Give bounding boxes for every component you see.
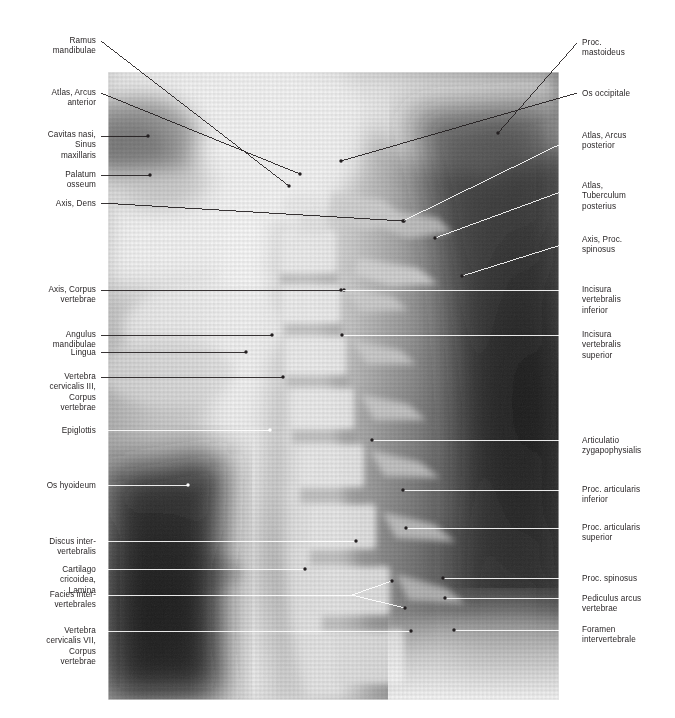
label-articulatio-zygapophysialis: Articulatio zygapophysialis bbox=[582, 436, 641, 457]
label-foramen-intervertebrale: Foramen intervertebrale bbox=[582, 625, 636, 646]
radiograph-image bbox=[108, 72, 559, 700]
label-epiglottis: Epiglottis bbox=[62, 426, 96, 436]
label-discus-intervertebralis: Discus inter- vertebralis bbox=[49, 537, 96, 558]
label-proc-spinosus: Proc. spinosus bbox=[582, 574, 637, 584]
label-vertebra-cervicalis-iii: Vertebra cervicalis III, Corpus vertebra… bbox=[49, 372, 96, 413]
label-axis-corpus-vertebrae: Axis, Corpus vertebrae bbox=[48, 285, 96, 306]
label-atlas-arcus-posterior: Atlas, Arcus posterior bbox=[582, 131, 626, 152]
label-lingua: Lingua bbox=[71, 348, 96, 358]
label-atlas-arcus-anterior: Atlas, Arcus anterior bbox=[52, 88, 96, 109]
radiograph-canvas bbox=[108, 72, 559, 700]
label-proc-mastoideus: Proc. mastoideus bbox=[582, 38, 625, 59]
label-palatum-osseum: Palatum osseum bbox=[65, 170, 96, 191]
label-vertebra-cervicalis-vii: Vertebra cervicalis VII, Corpus vertebra… bbox=[46, 626, 96, 667]
label-os-hyoideum: Os hyoideum bbox=[47, 481, 96, 491]
label-incisura-vertebralis-superior: Incisura vertebralis superior bbox=[582, 330, 621, 361]
label-facies-intervertebrales: Facies inter- vertebrales bbox=[50, 590, 96, 611]
label-axis-dens: Axis, Dens bbox=[56, 199, 96, 209]
label-ramus-mandibulae: Ramus mandibulae bbox=[53, 36, 96, 57]
label-proc-articularis-superior: Proc. articularis superior bbox=[582, 523, 640, 544]
label-axis-proc-spinosus: Axis, Proc. spinosus bbox=[582, 235, 622, 256]
label-incisura-vertebralis-inferior: Incisura vertebralis inferior bbox=[582, 285, 621, 316]
annotated-radiograph-figure: Ramus mandibulaeAtlas, Arcus anteriorCav… bbox=[0, 0, 675, 718]
label-atlas-tuberculum-posterius: Atlas, Tuberculum posterius bbox=[582, 181, 626, 212]
label-proc-articularis-inferior: Proc. articularis inferior bbox=[582, 485, 640, 506]
label-os-occipitale: Os occipitale bbox=[582, 89, 630, 99]
label-pediculus-arcus-vertebrae: Pediculus arcus vertebrae bbox=[582, 594, 641, 615]
label-cavitas-nasi: Cavitas nasi, Sinus maxillaris bbox=[48, 130, 96, 161]
